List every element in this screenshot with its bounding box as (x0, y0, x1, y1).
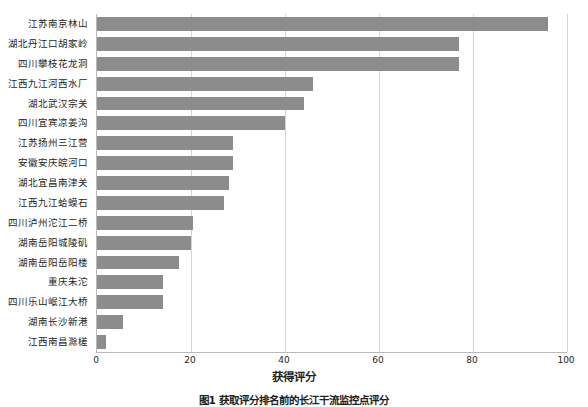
x-tick-label: 40 (278, 355, 289, 365)
category-label: 江西南昌滁槎 (0, 332, 92, 352)
category-label: 四川泸州沱江二桥 (0, 213, 92, 233)
bar (97, 236, 191, 250)
bar (97, 315, 123, 329)
figure-caption: 图1 获取评分排名前的长江干流监控点评分 (0, 392, 588, 407)
bar (97, 97, 304, 111)
bar (97, 77, 313, 91)
bar (97, 295, 163, 309)
bar-row (97, 34, 567, 54)
bar (97, 275, 163, 289)
category-label: 湖南岳阳城陵矶 (0, 233, 92, 253)
bar (97, 57, 459, 71)
x-tick-label: 100 (557, 355, 574, 365)
bar-row (97, 113, 567, 133)
x-tick-label: 60 (372, 355, 383, 365)
bar-row (97, 153, 567, 173)
bar (97, 37, 459, 51)
gridline-100 (567, 14, 568, 352)
bar (97, 256, 179, 270)
category-label: 湖南岳阳岳阳楼 (0, 253, 92, 273)
x-tick-label: 0 (93, 355, 99, 365)
category-axis-labels: 江苏南京林山湖北丹江口胡家岭四川攀枝花龙洞江西九江河西水厂湖北武汉宗关四川宜宾凉… (0, 14, 92, 352)
bar-row (97, 74, 567, 94)
category-label: 四川乐山岷江大桥 (0, 292, 92, 312)
x-axis-title: 获得评分 (0, 368, 588, 384)
bar (97, 17, 548, 31)
bar-row (97, 213, 567, 233)
category-label: 江苏扬州三江营 (0, 133, 92, 153)
category-label: 安徽安庆皖河口 (0, 153, 92, 173)
category-label: 湖北宜昌南津关 (0, 173, 92, 193)
x-tick-label: 20 (184, 355, 195, 365)
category-label: 四川攀枝花龙洞 (0, 54, 92, 74)
bar-row (97, 312, 567, 332)
bar-row (97, 292, 567, 312)
bar (97, 176, 229, 190)
x-tick-label: 80 (466, 355, 477, 365)
bar-row (97, 94, 567, 114)
plot-area (96, 14, 567, 353)
bar-row (97, 253, 567, 273)
bar-row (97, 332, 567, 352)
bar (97, 116, 285, 130)
bar-row (97, 133, 567, 153)
category-label: 江西九江河西水厂 (0, 74, 92, 94)
bar (97, 136, 233, 150)
bar (97, 196, 224, 210)
bar (97, 156, 233, 170)
category-label: 湖北丹江口胡家岭 (0, 34, 92, 54)
category-label: 湖北武汉宗关 (0, 94, 92, 114)
bar-row (97, 233, 567, 253)
bar-rows (97, 14, 567, 352)
category-label: 四川宜宾凉姜沟 (0, 113, 92, 133)
category-label: 江苏南京林山 (0, 14, 92, 34)
bar-row (97, 173, 567, 193)
bar-row (97, 14, 567, 34)
category-label: 江西九江蛤蟆石 (0, 193, 92, 213)
category-label: 重庆朱沱 (0, 272, 92, 292)
bar (97, 216, 193, 230)
bar-row (97, 193, 567, 213)
category-label: 湖南长沙新港 (0, 312, 92, 332)
bar-row (97, 272, 567, 292)
bar (97, 335, 106, 349)
bar-row (97, 54, 567, 74)
